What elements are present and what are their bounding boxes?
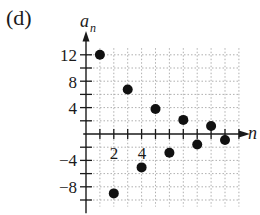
scatter-chart: 12 8 4 −4 −8 2 4 n a n <box>0 0 260 215</box>
data-point <box>137 162 147 172</box>
x-axis-label: n <box>248 123 257 143</box>
y-axis-label-subscript: n <box>90 21 96 35</box>
data-point <box>178 115 188 125</box>
y-tick-label-12: 12 <box>60 46 77 65</box>
y-axis-label: a <box>80 11 89 31</box>
data-point <box>123 84 133 94</box>
data-point <box>95 50 105 60</box>
data-point <box>151 104 161 114</box>
data-points <box>95 50 230 199</box>
y-axis-arrow-icon <box>83 31 90 42</box>
y-tick-label-neg8: −8 <box>59 178 77 197</box>
y-tick-label-8: 8 <box>69 73 78 92</box>
y-tick-label-4: 4 <box>69 99 78 118</box>
tick-labels: 12 8 4 −4 −8 2 4 n a n <box>59 11 257 197</box>
data-point <box>164 148 174 158</box>
data-point <box>206 121 216 131</box>
data-point <box>109 188 119 198</box>
grid-lines <box>86 48 239 206</box>
x-tick-label-2: 2 <box>110 144 119 163</box>
data-point <box>220 135 230 145</box>
y-tick-label-neg4: −4 <box>59 151 78 170</box>
data-point <box>192 140 202 150</box>
x-tick-label-4: 4 <box>138 144 147 163</box>
